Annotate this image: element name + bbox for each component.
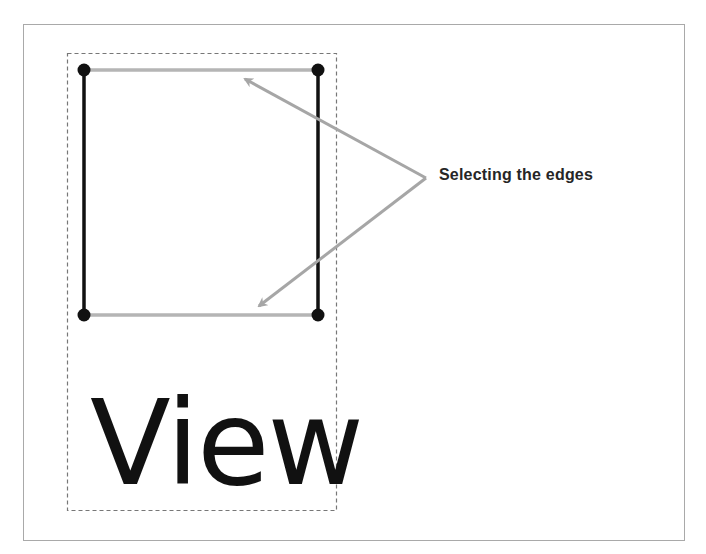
view-label: View — [90, 384, 362, 502]
callout-arrow-top — [245, 79, 426, 178]
node-bottom-right[interactable] — [312, 309, 325, 322]
callout-label: Selecting the edges — [439, 166, 593, 184]
node-bottom-left[interactable] — [78, 309, 91, 322]
node-top-right[interactable] — [312, 64, 325, 77]
callout-arrow-bottom — [259, 178, 426, 306]
node-top-left[interactable] — [78, 64, 91, 77]
